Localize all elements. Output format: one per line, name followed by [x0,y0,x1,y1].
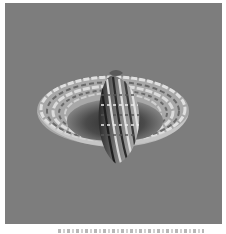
caption-text-cutoff [58,229,204,233]
figure-caption [0,226,226,234]
surface-render [5,3,222,224]
figure-panel [5,3,222,224]
